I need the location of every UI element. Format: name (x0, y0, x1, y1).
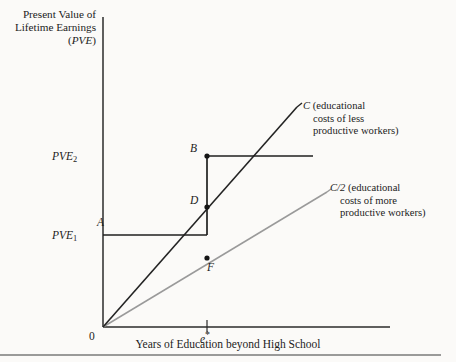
annotation-curve-c-line3: productive workers) (303, 125, 399, 138)
annotation-curve-c-half: C/2 (educational costs of more productiv… (330, 182, 426, 220)
point-label-f: F (207, 261, 214, 275)
x-axis-title: Years of Education beyond High School (0, 338, 456, 352)
curve-c-half (103, 192, 327, 327)
y-tick-label-pve2: PVE2 (52, 150, 77, 165)
annotation-curve-c-half-line2: costs of more (330, 195, 426, 208)
annotation-curve-c-half-head: C/2 (330, 182, 345, 193)
leader-c (297, 103, 302, 107)
annotation-curve-c: C (educational costs of less productive … (303, 100, 399, 138)
y-axis-title-line2: Lifetime Earnings (15, 21, 96, 33)
curve-c (103, 107, 297, 327)
signaling-model-figure: Present Value of Lifetime Earnings (PVE)… (0, 0, 456, 362)
x-tick-label-estar: e* (200, 329, 210, 346)
y-tick-label-pve1: PVE1 (52, 229, 77, 244)
diagram-canvas (0, 0, 456, 362)
y-axis-title-line1: Present Value of (23, 8, 96, 20)
annotation-curve-c-text1: (educational (310, 100, 365, 111)
y-axis-title-line3-close: ) (92, 34, 96, 46)
annotation-curve-c-line2: costs of less (303, 113, 399, 126)
annotation-curve-c-half-line3: productive workers) (330, 207, 426, 220)
x-tick-label-sup: * (205, 329, 210, 340)
annotation-curve-c-half-text1: (educational (345, 182, 400, 193)
y-tick-label-pve1-base: PVE (52, 229, 73, 241)
y-tick-label-pve1-sub: 1 (73, 234, 77, 243)
point-label-a: A (97, 216, 104, 230)
point-D (204, 204, 209, 209)
y-tick-label-pve2-sub: 2 (73, 155, 77, 164)
y-axis-title-line3-italic: PVE (72, 34, 93, 46)
y-tick-label-pve2-base: PVE (52, 150, 73, 162)
point-label-d: D (190, 194, 198, 208)
point-B (204, 153, 209, 158)
annotation-curve-c-half-line1: C/2 (educational (330, 182, 426, 195)
point-F (204, 255, 209, 260)
origin-label: 0 (89, 330, 95, 344)
y-axis-title: Present Value of Lifetime Earnings (PVE) (0, 8, 96, 48)
point-label-b: B (190, 142, 197, 156)
annotation-curve-c-line1: C (educational (303, 100, 399, 113)
